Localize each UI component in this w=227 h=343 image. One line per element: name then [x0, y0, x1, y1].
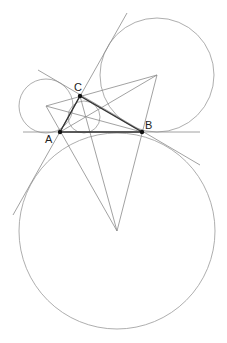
excentral-side-ia-ic: [46, 75, 157, 106]
diagram-canvas: [0, 0, 227, 343]
point-b: [140, 130, 144, 134]
bisector-c: [80, 96, 117, 231]
label-b: B: [145, 120, 152, 131]
point-c: [78, 94, 82, 98]
excentral-side-ia-ib: [46, 106, 117, 231]
label-c: C: [74, 82, 82, 93]
excentral-side-ic-ib: [117, 75, 157, 231]
line-bc-extended: [38, 70, 200, 165]
point-a: [58, 130, 62, 134]
label-a: A: [45, 134, 52, 145]
triangle-excircles-diagram: A B C: [0, 0, 227, 343]
incircle: [68, 101, 100, 133]
bisector-b: [46, 106, 142, 132]
